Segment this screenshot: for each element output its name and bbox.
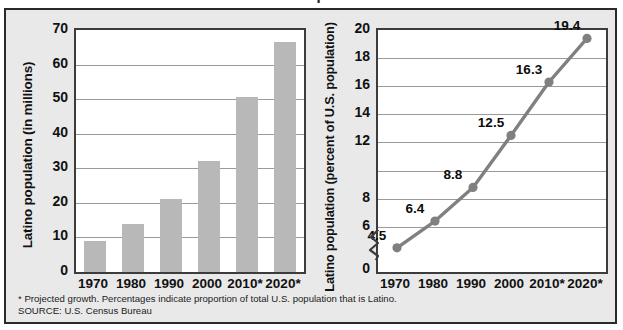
- data-point-2020proj: [582, 34, 591, 43]
- bar-chart-y-tick-label: 20: [52, 193, 68, 209]
- chart-card: Latino population (in millions) 01020304…: [4, 8, 617, 324]
- bar-chart-x-tick-label: 1980: [116, 276, 146, 291]
- bar-chart-plot-area: [74, 28, 306, 274]
- line-chart-y-tick-label: 14: [354, 104, 370, 120]
- bar-chart-y-tick-label: 30: [52, 158, 68, 174]
- line-chart-y-baseline-label: 0: [362, 260, 370, 276]
- bar-1990: [160, 199, 181, 272]
- bar-chart-y-axis-title: Latino population (in millions): [16, 26, 38, 284]
- line-chart-y-tick-label: 16: [354, 76, 370, 92]
- data-point-1990: [468, 183, 477, 192]
- line-chart-y-tick-label: 20: [354, 20, 370, 36]
- data-label-2000: 12.5: [478, 115, 504, 130]
- footnote-projection-note: * Projected growth. Percentages indicate…: [18, 293, 578, 306]
- bar-2020proj: [274, 42, 295, 272]
- bar-chart-x-tick-label: 1970: [78, 276, 108, 291]
- bar-chart-gridline: [76, 237, 304, 238]
- bar-chart-x-tick-label: 2020*: [265, 276, 300, 291]
- line-chart-x-tick-label: 2020*: [567, 276, 602, 291]
- data-label-2010proj: 16.3: [516, 62, 542, 77]
- bar-chart-gridline: [76, 65, 304, 66]
- bar-chart-y-tick-labels: 010203040506070: [38, 28, 68, 274]
- bar-2010proj: [236, 97, 257, 272]
- line-chart-plot-area: 4.56.48.812.516.319.4: [376, 28, 608, 274]
- data-label-1990: 8.8: [444, 167, 463, 182]
- bar-chart-gridline: [76, 134, 304, 135]
- bar-chart-panel: Latino population (in millions) 01020304…: [16, 22, 312, 304]
- bar-chart-y-tick-label: 0: [60, 262, 68, 278]
- bar-1980: [122, 224, 143, 272]
- line-chart-y-tick-label: 18: [354, 48, 370, 64]
- line-chart-x-tick-label: 2000: [494, 276, 524, 291]
- data-point-1980: [430, 217, 439, 226]
- clipped-title: Latino Population: [248, 0, 375, 3]
- bar-chart-y-tick-label: 70: [52, 20, 68, 36]
- y-axis-break-icon: [365, 230, 383, 260]
- clipped-title-strip: Latino Population: [0, 0, 623, 7]
- data-point-2010proj: [544, 77, 553, 86]
- footnote-block: * Projected growth. Percentages indicate…: [18, 293, 578, 318]
- bar-2000: [198, 161, 219, 272]
- bar-chart-x-tick-label: 2000: [192, 276, 222, 291]
- data-point-1970: [392, 243, 401, 252]
- bar-chart-gridline: [76, 168, 304, 169]
- bar-chart-x-tick-label: 1990: [154, 276, 184, 291]
- bar-chart-y-tick-label: 10: [52, 227, 68, 243]
- line-path: [397, 38, 587, 247]
- bar-chart-y-tick-label: 50: [52, 89, 68, 105]
- bar-chart-y-tick-label: 60: [52, 55, 68, 71]
- line-chart-y-axis-title: Latino population (percent of U.S. popul…: [318, 24, 340, 290]
- line-chart-series: [378, 30, 606, 272]
- data-label-1980: 6.4: [406, 201, 425, 216]
- line-chart-x-tick-label: 1980: [418, 276, 448, 291]
- line-chart-panel: Latino population (percent of U.S. popul…: [318, 22, 614, 304]
- bar-chart-gridline: [76, 203, 304, 204]
- line-chart-x-tick-label: 2010*: [529, 276, 564, 291]
- bar-chart-gridline: [76, 99, 304, 100]
- data-point-2000: [506, 131, 515, 140]
- footnote-source: SOURCE: U.S. Census Bureau: [18, 305, 578, 318]
- figure-root: Latino Population Latino population (in …: [0, 0, 623, 330]
- line-chart-x-tick-label: 1990: [456, 276, 486, 291]
- line-chart-y-tick-label: 8: [362, 189, 370, 205]
- bar-chart-x-tick-label: 2010*: [227, 276, 262, 291]
- bar-chart-y-tick-label: 40: [52, 124, 68, 140]
- line-chart-x-tick-label: 1970: [380, 276, 410, 291]
- line-chart-y-tick-label: 12: [354, 132, 370, 148]
- data-label-2020proj: 19.4: [554, 18, 580, 33]
- bar-1970: [84, 241, 105, 272]
